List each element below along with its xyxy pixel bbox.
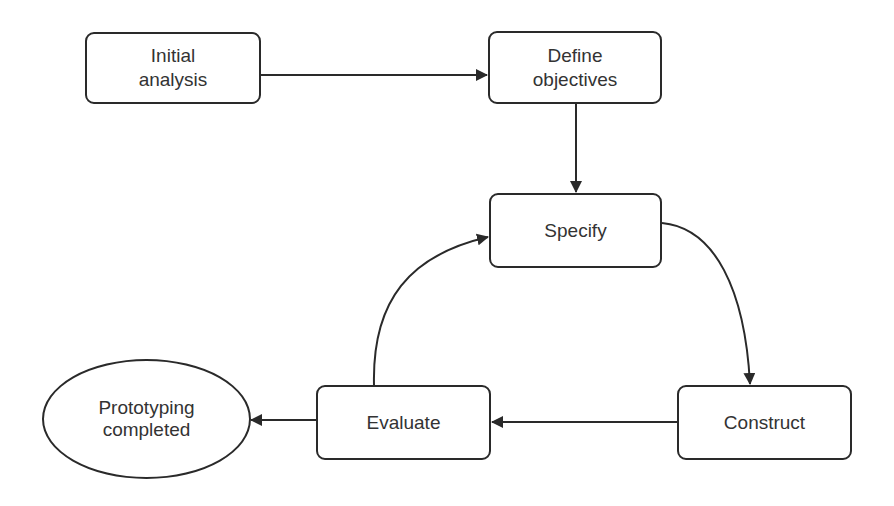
node-define-objectives: Define objectives	[488, 31, 662, 104]
node-initial-analysis: Initial analysis	[85, 32, 261, 104]
node-label: Construct	[724, 411, 805, 435]
node-label: Evaluate	[367, 411, 441, 435]
edge-specify-to-construct	[662, 223, 750, 384]
node-prototyping-completed: Prototyping completed	[42, 359, 251, 479]
node-construct: Construct	[677, 385, 852, 460]
node-label: Specify	[544, 219, 606, 243]
node-label: Initial analysis	[139, 44, 208, 92]
node-label: Prototyping completed	[98, 397, 194, 441]
node-specify: Specify	[489, 193, 662, 268]
prototyping-flowchart: Initial analysis Define objectives Speci…	[0, 0, 894, 506]
node-label: Define objectives	[533, 44, 618, 92]
edge-evaluate-to-specify	[374, 237, 488, 385]
node-evaluate: Evaluate	[316, 385, 491, 460]
